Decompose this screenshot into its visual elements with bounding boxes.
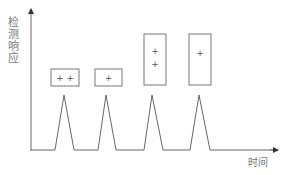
peak-box-3: + + [144,34,166,85]
box-2-marks: + [105,73,113,83]
detection-response-diagram: 检 测 响 应 时间 + + + + + + [0,0,291,175]
box-3-mark-bottom: + [151,59,159,69]
peak-box-1: + + [51,69,79,86]
y-axis-label-char-4: 应 [8,51,19,65]
peak-box-2: + [95,69,122,86]
box-3-mark-top: + [151,46,159,56]
x-axis-label: 时间 [248,156,268,168]
peak-box-4: + [189,34,211,85]
box-1-marks: + + [56,73,74,83]
signal-trace [31,95,277,150]
box-4-marks: + [196,48,204,58]
y-axis-label-char-1: 检 [8,15,19,29]
